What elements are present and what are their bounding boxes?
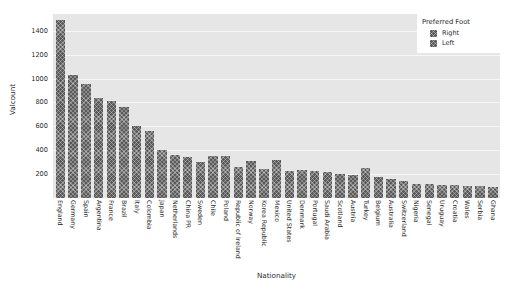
y-axis-tick-labels: 200400600800100012001400 [22, 14, 51, 198]
bar-slot [54, 14, 67, 198]
x-axis-tick-label: Republic of Ireland [235, 200, 242, 259]
bar-slot [79, 14, 92, 198]
x-tick-slot: Turkey [359, 199, 372, 265]
x-tick-slot: Ghana [486, 199, 499, 265]
bar-slot [207, 14, 220, 198]
x-tick-slot: Switzerland [397, 199, 410, 265]
y-axis-tick-label: 1400 [31, 27, 48, 35]
bar [297, 170, 306, 198]
x-tick-slot: Denmark [296, 199, 309, 265]
y-axis-tick-label: 1000 [31, 75, 48, 83]
bar-slot [232, 14, 245, 198]
bar [81, 84, 90, 198]
x-tick-slot: Norway [245, 199, 258, 265]
bar [132, 126, 141, 198]
bar-slot [296, 14, 309, 198]
x-tick-slot: Italy [130, 199, 143, 265]
y-axis-title: Valcount [6, 0, 20, 198]
bar [94, 98, 103, 198]
x-tick-slot: Saudi Arabia [321, 199, 334, 265]
x-tick-slot: Korea Republic [258, 199, 271, 265]
bar-slot [359, 14, 372, 198]
bar [386, 179, 395, 198]
bar [183, 157, 192, 198]
x-tick-slot: Austria [347, 199, 360, 265]
bar [361, 168, 370, 198]
x-axis-tick-label: Germany [70, 200, 77, 229]
x-tick-slot: Croatia [448, 199, 461, 265]
x-axis-tick-label: Saudi Arabia [324, 200, 331, 240]
x-axis-tick-label: Portugal [311, 200, 318, 226]
legend-swatch [430, 40, 437, 47]
bar [323, 172, 332, 198]
x-tick-slot: Wales [461, 199, 474, 265]
bar [488, 187, 497, 198]
x-axis-tick-label: Spain [82, 200, 89, 218]
x-tick-slot: Brazil [118, 199, 131, 265]
bar [196, 162, 205, 198]
y-axis-tick-label: 800 [35, 98, 48, 106]
bar-slot [283, 14, 296, 198]
x-axis-tick-label: Italy [133, 200, 140, 214]
x-tick-slot: United States [283, 199, 296, 265]
x-axis-tick-label: Turkey [362, 200, 369, 221]
bar [208, 156, 217, 198]
x-axis-tick-label: England [57, 200, 64, 226]
bar-slot [334, 14, 347, 198]
bar [285, 171, 294, 198]
bar [272, 160, 281, 198]
bar-slot [219, 14, 232, 198]
bar-slot [181, 14, 194, 198]
y-axis-tick-label: 1200 [31, 51, 48, 59]
bar-slot [372, 14, 385, 198]
bar [310, 171, 319, 198]
legend-entry: Right [430, 29, 494, 37]
x-axis-tick-label: Argentina [95, 200, 102, 231]
bar-chart-figure: Valcount 200400600800100012001400 Englan… [0, 0, 508, 292]
bar-slot [67, 14, 80, 198]
x-axis-tick-label: Scotland [337, 200, 344, 227]
x-tick-slot: Senegal [423, 199, 436, 265]
bar [335, 174, 344, 198]
bar [412, 184, 421, 198]
bar [348, 175, 357, 198]
x-tick-slot: Germany [67, 199, 80, 265]
bar [119, 107, 128, 198]
legend-entry: Left [430, 39, 494, 47]
bar-slot [308, 14, 321, 198]
bar-slot [385, 14, 398, 198]
x-tick-slot: Australia [385, 199, 398, 265]
x-axis-tick-label: Wales [464, 200, 471, 219]
bar-slot [321, 14, 334, 198]
x-axis-tick-label: Brazil [120, 200, 127, 218]
bar-slot [130, 14, 143, 198]
x-tick-slot: Mexico [270, 199, 283, 265]
bar [234, 167, 243, 198]
bar-slot [397, 14, 410, 198]
bar [475, 186, 484, 198]
x-axis-tick-labels: EnglandGermanySpainArgentinaFranceBrazil… [53, 199, 500, 265]
x-axis-tick-label: Ghana [489, 200, 496, 221]
bar [437, 185, 446, 198]
x-tick-slot: Republic of Ireland [232, 199, 245, 265]
x-axis-tick-label: Mexico [273, 200, 280, 222]
x-axis-tick-label: United States [286, 200, 293, 243]
x-axis-title: Nationality [53, 271, 500, 280]
legend: Preferred Foot RightLeft [417, 14, 500, 53]
legend-label: Left [442, 39, 454, 47]
y-axis-tick-label: 600 [35, 122, 48, 130]
x-tick-slot: China PR [181, 199, 194, 265]
legend-entries: RightLeft [422, 29, 494, 47]
x-tick-slot: England [54, 199, 67, 265]
x-tick-slot: France [105, 199, 118, 265]
bar [259, 169, 268, 198]
x-tick-slot: Chile [207, 199, 220, 265]
x-axis-tick-label: Denmark [299, 200, 306, 229]
x-axis-tick-label: Norway [248, 200, 255, 224]
legend-swatch [430, 30, 437, 37]
bar-slot [143, 14, 156, 198]
x-axis-tick-label: Belgium [375, 200, 382, 226]
x-axis-tick-label: France [108, 200, 115, 221]
bar [145, 131, 154, 198]
bar-slot [156, 14, 169, 198]
